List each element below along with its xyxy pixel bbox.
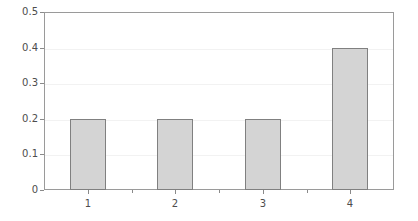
y-axis-tick-label: 0.4 — [22, 43, 38, 53]
x-axis-minor-tick-mark — [132, 190, 133, 193]
bar — [157, 119, 193, 190]
x-axis-tick-mark — [88, 190, 89, 194]
x-axis-tick-label: 2 — [172, 198, 178, 209]
bar — [245, 119, 281, 190]
y-axis-tick-label: 0 — [32, 185, 38, 195]
x-axis-minor-tick-mark — [307, 190, 308, 193]
x-axis-tick-mark — [350, 190, 351, 194]
y-axis-tick-label: 0.2 — [22, 114, 38, 124]
bar — [332, 48, 368, 190]
y-axis-tick-mark — [40, 83, 44, 84]
y-axis-tick-label: 0.1 — [22, 149, 38, 159]
x-axis-tick-label: 3 — [260, 198, 266, 209]
x-axis-tick-label: 4 — [347, 198, 353, 209]
x-axis-minor-tick-mark — [219, 190, 220, 193]
y-axis-tick-label: 0.5 — [22, 7, 38, 17]
x-axis-tick-mark — [175, 190, 176, 194]
y-axis-tick-mark — [40, 48, 44, 49]
y-axis-tick-mark — [40, 154, 44, 155]
x-axis-tick-mark — [263, 190, 264, 194]
y-axis-tick-label: 0.3 — [22, 78, 38, 88]
y-axis-tick-mark — [40, 12, 44, 13]
y-axis-tick-mark — [40, 119, 44, 120]
y-axis-tick-mark — [40, 190, 44, 191]
bar-chart: 00.10.20.30.40.5 1234 — [0, 0, 418, 221]
x-axis-tick-label: 1 — [85, 198, 91, 209]
bar — [70, 119, 106, 190]
